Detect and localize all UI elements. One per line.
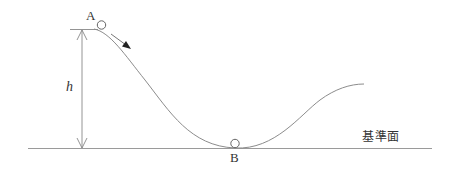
motion-arrow-head-icon — [122, 41, 131, 49]
motion-arrow-shaft — [111, 34, 126, 45]
ball-b-icon — [231, 139, 239, 147]
height-label: h — [66, 80, 73, 94]
track-curve — [94, 29, 364, 148]
point-b-label: B — [230, 151, 239, 164]
reference-plane-label: 基準面 — [362, 131, 400, 143]
ball-a-icon — [97, 21, 105, 29]
point-a-label: A — [86, 9, 95, 22]
